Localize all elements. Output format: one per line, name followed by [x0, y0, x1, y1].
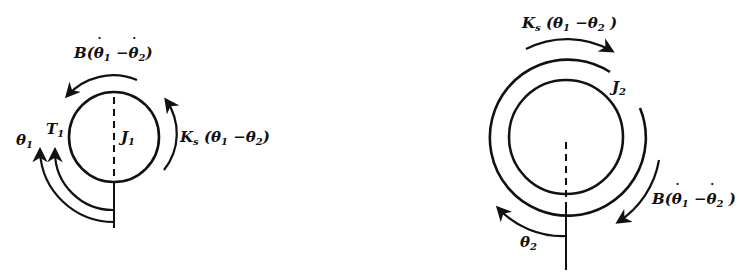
- left-body: [40, 75, 177, 228]
- torque-t1-label: T1: [46, 122, 64, 139]
- angle-theta2-arrow: [498, 208, 566, 236]
- right-body: [490, 39, 659, 270]
- left-damper-torque-label: B(θ1 −θ2): [74, 46, 153, 63]
- spring-torque-arrow: [164, 100, 177, 170]
- diagram-canvas: [0, 0, 740, 278]
- angle-theta2-label: θ2: [520, 235, 537, 252]
- right-spring-torque-label: Ks (θ1 −θ2 ): [522, 16, 617, 33]
- left-spring-torque-label: Ks (θ1 −θ2): [180, 130, 270, 147]
- inertia-disk-j2-inner: [509, 80, 623, 194]
- right-damper-torque-label: B(θ1 −θ2 ): [652, 192, 736, 209]
- angle-theta1-label: θ1: [16, 133, 33, 150]
- spring-torque-arrow: [526, 39, 612, 51]
- inertia-j1-label: J1: [121, 130, 135, 147]
- inertia-j2-label: J2: [612, 80, 626, 97]
